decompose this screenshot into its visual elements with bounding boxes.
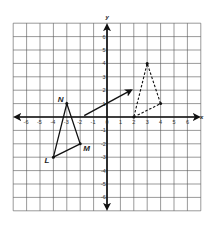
x-tick-label: -3 [64, 119, 69, 125]
vertex-label-l: L [44, 156, 49, 165]
x-tick-label: 2 [132, 119, 135, 125]
x-tick-label: 5 [173, 119, 176, 125]
x-tick-label: 3 [146, 119, 149, 125]
y-tick-label: 5 [103, 47, 106, 53]
x-axis-label: x [199, 114, 204, 120]
vertex-point [65, 102, 68, 105]
x-tick-label: 6 [186, 119, 189, 125]
y-tick-label: 3 [103, 74, 106, 80]
y-tick-label: 2 [103, 87, 106, 93]
x-tick-label: -1 [91, 119, 96, 125]
vertex-point [132, 116, 135, 119]
vertex-label-n: N [58, 95, 64, 104]
x-tick-label: -5 [37, 119, 42, 125]
y-tick-label: 6 [103, 34, 106, 40]
y-tick-label: -2 [101, 141, 106, 147]
y-tick-label: -1 [101, 127, 106, 133]
x-tick-label: 4 [159, 119, 162, 125]
x-tick-label: -2 [77, 119, 82, 125]
y-tick-label: -3 [101, 154, 106, 160]
coordinate-plane: -6-5-4-3-2-10123456654321-1-2-3-4-5-6 LM… [0, 0, 217, 234]
vertex-point [52, 156, 55, 159]
y-tick-label: -6 [101, 194, 106, 200]
vertex-point [79, 142, 82, 145]
x-tick-label: 1 [119, 119, 122, 125]
vertex-point [146, 62, 149, 65]
x-tick-label: -6 [24, 119, 29, 125]
x-tick-label: -4 [50, 119, 55, 125]
vertex-label-m: M [83, 144, 90, 153]
x-tick-label: 0 [106, 119, 109, 125]
y-tick-label: 4 [103, 60, 106, 66]
axes [15, 25, 199, 209]
y-tick-label: -4 [101, 168, 106, 174]
vertex-point [159, 102, 162, 105]
y-tick-label: -5 [101, 181, 106, 187]
y-axis-label: y [105, 14, 110, 20]
translation-arrow [84, 90, 131, 115]
